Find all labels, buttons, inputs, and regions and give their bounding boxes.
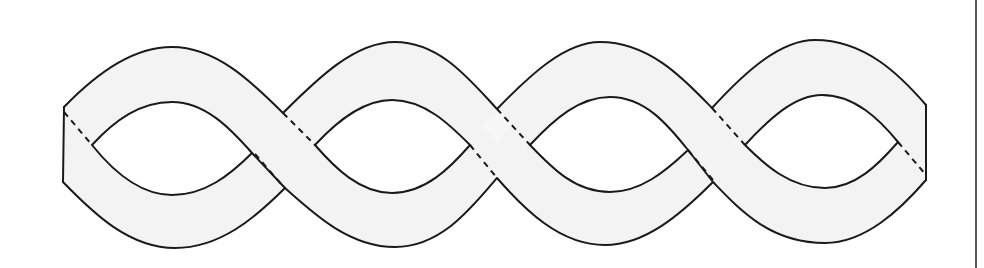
twisted-band-figure: Line drawing of a twisted band forming f…: [0, 0, 984, 268]
band-left-end-edge: [63, 107, 64, 182]
twisted-band-diagram: [0, 0, 984, 268]
